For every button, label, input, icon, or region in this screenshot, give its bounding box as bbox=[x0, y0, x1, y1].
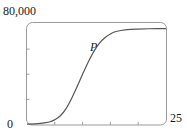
logistic-chart: 80,000 0 25 P bbox=[0, 0, 187, 136]
x-axis-max-label: 25 bbox=[170, 112, 182, 124]
origin-label: 0 bbox=[7, 118, 13, 130]
y-axis-max-label: 80,000 bbox=[3, 5, 36, 17]
axis-ticks bbox=[27, 49, 139, 125]
plot-area bbox=[0, 0, 187, 136]
series-label-p: P bbox=[90, 40, 97, 55]
plot-frame bbox=[27, 23, 167, 126]
